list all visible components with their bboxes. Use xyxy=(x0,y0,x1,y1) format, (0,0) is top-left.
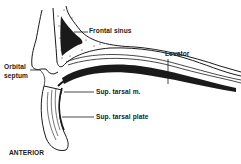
label-sup-tarsal-plate: Sup. tarsal plate xyxy=(96,113,148,121)
superior-tarsal-plate xyxy=(41,86,68,151)
label-orbital-septum-line1: Orbital xyxy=(4,63,26,71)
label-frontal-sinus: Frontal sinus xyxy=(89,27,132,35)
label-orbital-septum-line2: septum xyxy=(4,72,28,80)
label-anterior: ANTERIOR xyxy=(9,149,44,157)
orbital-septum-curve xyxy=(40,70,45,86)
label-sup-tarsal-m: Sup. tarsal m. xyxy=(96,88,141,96)
eyelid-anatomy-figure xyxy=(0,0,241,164)
levator-muscle xyxy=(62,65,236,93)
frontal-sinus-shape xyxy=(60,16,82,56)
label-levator: Levator xyxy=(165,50,189,58)
